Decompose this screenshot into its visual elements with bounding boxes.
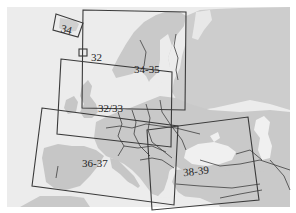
sheet-label-36-37[interactable]: 36-37 — [82, 157, 108, 169]
sheet-label-34-35[interactable]: 34-35 — [134, 63, 160, 75]
sheet-label-32[interactable]: 32 — [91, 51, 102, 63]
land-northern-russia — [172, 7, 290, 110]
europe-sheet-index-map: 34 32 34-35 32/33 36-37 38-39 — [0, 0, 296, 213]
sheet-label-32-33[interactable]: 32/33 — [98, 102, 124, 114]
